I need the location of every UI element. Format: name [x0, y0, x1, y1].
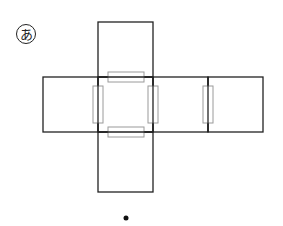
net-left-face [43, 77, 98, 132]
net-right-face [153, 77, 208, 132]
net-bottom-face [98, 132, 153, 192]
dot-marker [124, 216, 129, 221]
cube-net-diagram [0, 0, 283, 226]
net-far-right-face [208, 77, 263, 132]
net-center-face [98, 77, 153, 132]
net-top-face [98, 22, 153, 77]
